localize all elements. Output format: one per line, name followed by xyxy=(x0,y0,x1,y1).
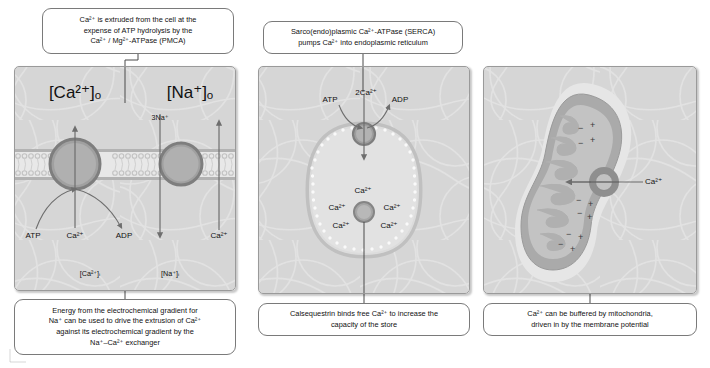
label-atp-pmca: ATP xyxy=(26,231,41,240)
label-store-ca-4: Ca²⁺ xyxy=(332,221,349,230)
label-3na: 3Na⁺ xyxy=(152,113,169,122)
label-ca-uniporter: Ca²⁺ xyxy=(645,177,662,186)
label-ca-extracellular: [Ca²⁺]ₒ xyxy=(49,82,101,103)
label-adp-pmca: ADP xyxy=(116,231,132,240)
label-adp-serca: ADP xyxy=(392,95,408,104)
label-ca-pmca: Ca²⁺ xyxy=(66,231,83,240)
label-ca-ncx: Ca²⁺ xyxy=(210,231,227,240)
caption-ncx: Energy from the electrochemical gradient… xyxy=(14,299,236,355)
caption-pmca: Ca²⁺ is extruded from the cell at the ex… xyxy=(42,8,234,54)
caption-calsequestrin: Calsequestrin binds free Ca²⁺ to increas… xyxy=(258,303,470,336)
label-ca-intracellular: [Ca²⁺]ᵢ xyxy=(80,269,101,278)
figure-canvas: ++ ++ ++ −− −− −− [Ca²⁺]ₒ [Na⁺]ₒ 3Na⁺ AT… xyxy=(0,0,710,368)
panel-mitochondria xyxy=(483,66,697,294)
label-2ca: 2Ca²⁺ xyxy=(355,88,377,97)
label-na-intracellular: [Na⁺]ᵢ xyxy=(161,269,179,278)
label-store-ca-5: Ca²⁺ xyxy=(380,221,397,230)
label-atp-serca: ATP xyxy=(323,95,338,104)
label-store-ca-3: Ca²⁺ xyxy=(383,203,400,212)
panel-endoplasmic-reticulum xyxy=(258,66,470,294)
caption-mitochondria: Ca²⁺ can be buffered by mitochondria, dr… xyxy=(483,303,697,336)
label-store-ca-1: Ca²⁺ xyxy=(354,186,371,195)
label-na-extracellular: [Na⁺]ₒ xyxy=(167,82,214,103)
caption-serca: Sarco(endo)plasmic Ca²⁺-ATPase (SERCA) p… xyxy=(263,21,463,54)
label-store-ca-2: Ca²⁺ xyxy=(328,203,345,212)
